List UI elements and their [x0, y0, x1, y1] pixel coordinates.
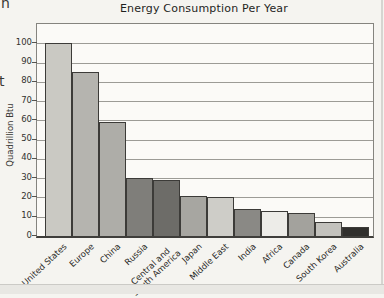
x-tick-label: China: [99, 242, 123, 265]
y-tick-mark: [32, 235, 37, 236]
x-tick-label: India: [236, 242, 257, 263]
y-tick-label: 70: [8, 96, 32, 105]
y-tick-label: 80: [8, 76, 32, 85]
bar-canada: [288, 213, 315, 236]
page-bottom-edge: [0, 284, 384, 294]
bar-africa: [261, 211, 288, 236]
y-tick-label: 10: [8, 211, 32, 220]
plot-area: [36, 23, 374, 238]
bar-australia: [342, 227, 369, 236]
y-tick-label: 20: [8, 192, 32, 201]
y-tick-mark: [32, 216, 37, 217]
y-tick-mark: [32, 42, 37, 43]
y-tick-mark: [32, 139, 37, 140]
bar-central-and-south-america: [153, 180, 180, 236]
page-edge-line: [381, 0, 383, 284]
y-tick-mark: [32, 158, 37, 159]
bar-europe: [72, 72, 99, 236]
y-tick-mark: [32, 100, 37, 101]
y-tick-mark: [32, 62, 37, 63]
cropped-text-fragment: n: [1, 0, 10, 11]
y-tick-mark: [32, 196, 37, 197]
y-tick-label: 30: [8, 173, 32, 182]
bar-china: [99, 122, 126, 236]
bar-united-states: [45, 43, 72, 236]
bar-india: [234, 209, 261, 236]
y-tick-label: 90: [8, 57, 32, 66]
bar-south-korea: [315, 222, 342, 236]
y-tick-mark: [32, 81, 37, 82]
gridline: [37, 43, 373, 44]
y-tick-label: 100: [8, 38, 32, 47]
cropped-text-fragment: t: [0, 73, 5, 89]
y-tick-label: 50: [8, 134, 32, 143]
gridline: [37, 63, 373, 64]
y-tick-mark: [32, 119, 37, 120]
x-tick-label: Europe: [68, 242, 96, 269]
y-tick-label: 40: [8, 153, 32, 162]
x-tick-label: United States: [20, 242, 68, 288]
bar-japan: [180, 196, 207, 236]
bar-russia: [126, 178, 153, 236]
y-tick-mark: [32, 177, 37, 178]
y-tick-label: 60: [8, 115, 32, 124]
y-tick-label: 0: [8, 231, 32, 240]
chart-title: Energy Consumption Per Year: [36, 2, 372, 15]
bar-middle-east: [207, 197, 234, 236]
